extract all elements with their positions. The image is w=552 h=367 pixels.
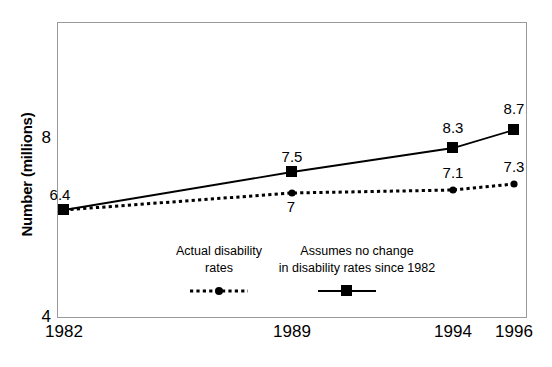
legend-label-actual-line1: Actual disability xyxy=(159,243,279,260)
legend-label-actual-line2: rates xyxy=(159,260,279,277)
x-tick-label-1982: 1982 xyxy=(28,322,100,342)
data-label-1994-assumes: 8.3 xyxy=(433,119,473,136)
data-label-1994-actual: 7.1 xyxy=(433,164,473,181)
x-tick-label-1996: 1996 xyxy=(478,322,550,342)
x-tick-label-1989: 1989 xyxy=(256,322,328,342)
data-label-1989-actual: 7 xyxy=(276,198,306,215)
data-label-1996-assumes: 8.7 xyxy=(494,100,534,117)
marker-square-1989 xyxy=(286,166,297,177)
data-label-1996-actual: 7.3 xyxy=(494,158,534,175)
data-label-1989-assumes: 7.5 xyxy=(272,148,312,165)
marker-square-1994 xyxy=(447,142,458,153)
legend-label-assumes-line1: Assumes no change xyxy=(277,243,437,260)
marker-circle-1994 xyxy=(449,186,456,193)
chart-figure: Number (millions) 8 4 6.4 7.5 7 8.3 7.1 … xyxy=(0,0,552,367)
legend-swatch-assumes-marker xyxy=(341,285,352,296)
marker-square-1996 xyxy=(508,124,519,135)
data-label-1982-assumes: 6.4 xyxy=(40,186,80,203)
marker-square-1982 xyxy=(58,204,69,215)
series-canvas xyxy=(0,0,552,367)
marker-circle-1989 xyxy=(288,189,295,196)
legend-label-assumes-line2: in disability rates since 1982 xyxy=(267,260,447,277)
marker-circle-1996 xyxy=(510,180,517,187)
legend-swatch-actual-marker xyxy=(215,287,223,295)
